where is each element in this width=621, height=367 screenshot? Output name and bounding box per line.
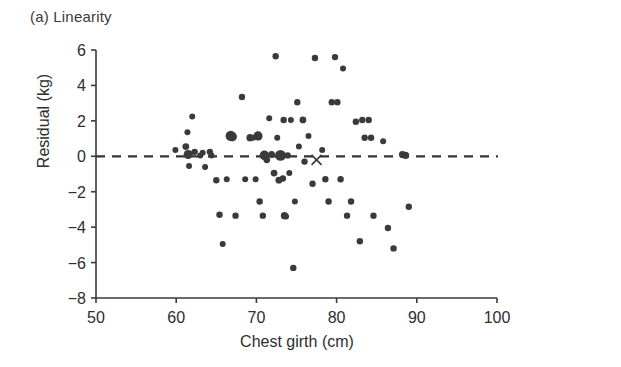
data-point [224,176,230,182]
x-axis-tick-label: 100 [484,309,511,326]
data-point [253,131,262,140]
x-axis-tick-label: 80 [328,309,346,326]
data-point [353,119,359,125]
y-axis-tick-label: 4 [77,77,86,94]
x-axis-tick-label: 60 [167,309,185,326]
data-point [325,198,331,204]
data-point [288,117,294,123]
data-point [332,54,338,60]
data-point [274,135,280,141]
data-point [402,152,409,159]
data-point [300,117,307,124]
y-axis-tick-label: 0 [77,148,86,165]
data-point [220,241,226,247]
data-point [266,115,272,121]
scatter-plot-canvas: −8−6−4−20246 5060708090100 [0,0,621,367]
data-point [228,132,237,141]
data-point [294,99,300,105]
data-point [290,265,296,271]
data-point [322,176,328,182]
data-point [380,138,386,144]
data-point-x-marker [312,155,322,165]
x-axis-tick-label: 90 [408,309,426,326]
data-point [286,170,292,176]
data-point [280,175,286,181]
data-point [271,170,278,177]
data-point [182,143,189,150]
data-point [256,198,262,204]
data-point [184,129,190,135]
data-point [189,113,195,119]
y-axis-tick-label: −2 [68,184,86,201]
y-axis-tick-label: −8 [68,290,86,307]
data-point [385,225,391,231]
x-axis-tick-label: 50 [87,309,105,326]
data-point [191,149,197,155]
data-point [334,99,340,105]
data-point [253,176,259,182]
data-point [268,151,275,158]
data-point [242,176,248,182]
data-point [368,134,374,140]
data-point [309,181,315,187]
data-point [365,117,371,123]
data-point [272,53,278,59]
data-point [284,152,290,158]
figure-panel-linearity: (a) Linearity Residual (kg) Chest girth … [0,0,621,367]
data-point [337,176,343,182]
x-axis: 5060708090100 [87,298,510,326]
data-points [172,53,412,271]
data-point [263,156,270,163]
data-point [186,163,192,169]
data-point [344,212,350,218]
data-point [202,164,208,170]
data-point [370,212,376,218]
data-point [213,177,219,183]
data-point [292,198,298,204]
data-point [296,144,302,150]
x-axis-label: Chest girth (cm) [96,333,498,351]
data-point [184,150,193,159]
y-axis-tick-label: 2 [77,113,86,130]
data-point [208,152,214,158]
data-point [329,99,335,105]
data-point [306,133,312,139]
data-point [406,204,412,210]
data-point [361,134,367,140]
data-point [239,94,245,100]
data-point [260,212,266,218]
data-point [232,212,238,218]
y-axis-label: Residual (kg) [35,41,53,201]
data-point [280,117,286,123]
data-point [200,150,206,156]
page-title: (a) Linearity [30,8,112,25]
data-point [357,238,363,244]
data-point [359,117,365,123]
y-axis: −8−6−4−20246 [68,42,96,307]
data-point [319,147,325,153]
data-point [312,55,318,61]
data-point [301,158,307,164]
data-point [348,198,354,204]
y-axis-tick-label: −4 [68,219,86,236]
x-axis-tick-label: 70 [248,309,266,326]
y-axis-tick-label: −6 [68,255,86,272]
data-point [390,245,396,251]
data-point [216,212,222,218]
data-point [340,66,346,72]
data-point [172,147,178,153]
data-point [283,214,289,220]
y-axis-tick-label: 6 [77,42,86,59]
